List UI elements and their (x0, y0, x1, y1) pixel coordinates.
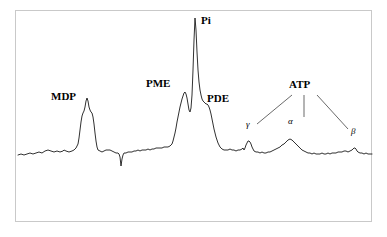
peak-label-pme: PME (146, 78, 170, 89)
peak-label-atp-alpha: α (288, 117, 293, 126)
peak-label-pde: PDE (207, 93, 229, 104)
peak-label-mdp: MDP (51, 91, 76, 102)
peak-label-atp-gamma: γ (246, 120, 250, 129)
peak-label-atp: ATP (289, 79, 310, 90)
atp-leader-lines (257, 95, 348, 129)
peak-label-pi: Pi (201, 15, 211, 26)
atp-leader-line-0 (257, 95, 292, 124)
nmr-spectrum-figure: MDP PME Pi PDE ATP γ α β (0, 0, 387, 237)
spectrum-plot (0, 0, 387, 237)
peak-label-atp-beta: β (351, 127, 355, 136)
atp-leader-line-2 (317, 95, 348, 129)
